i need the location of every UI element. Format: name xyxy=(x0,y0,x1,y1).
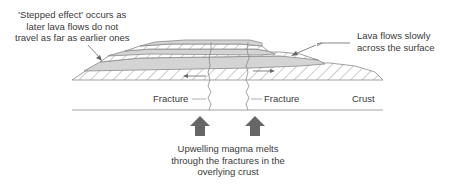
magma-arrow-right xyxy=(245,116,265,136)
stepped-effect-pointer-head xyxy=(96,55,102,61)
crust-label: Crust xyxy=(352,93,375,105)
lava-flows-line-1: Lava flows slowly xyxy=(357,30,435,42)
magma-arrow-left xyxy=(190,116,210,136)
stepped-effect-line-1: 'Stepped effect' occurs as xyxy=(15,9,130,21)
lava-flows-line-2: across the surface xyxy=(357,42,435,54)
upwelling-line-3: overlying crust xyxy=(158,166,298,178)
stepped-effect-line-3: travel as far as earlier ones xyxy=(15,32,130,44)
upwelling-line-2: through the fractures in the xyxy=(158,155,298,167)
upwelling-label: Upwelling magma melts through the fractu… xyxy=(158,143,298,178)
stepped-effect-label: 'Stepped effect' occurs as later lava fl… xyxy=(15,9,130,44)
stepped-effect-pointer xyxy=(88,45,100,58)
fracture-left-label: Fracture xyxy=(153,93,188,105)
lava-flows-pointer-main xyxy=(295,45,316,54)
stepped-effect-line-2: later lava flows do not xyxy=(15,21,130,33)
fracture-right-label: Fracture xyxy=(264,93,299,105)
upwelling-line-1: Upwelling magma melts xyxy=(158,143,298,155)
lava-flows-label: Lava flows slowly across the surface xyxy=(357,30,435,53)
